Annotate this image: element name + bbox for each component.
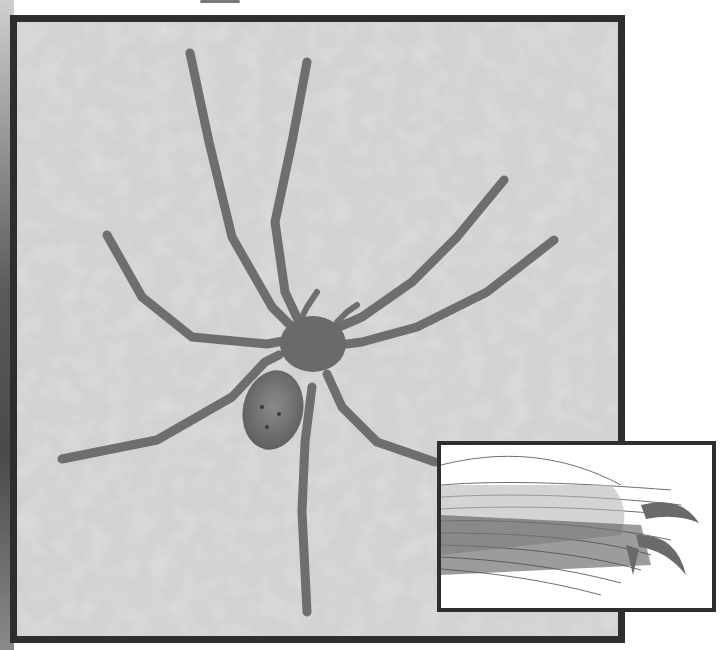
inset-claw-micrograph <box>437 441 716 612</box>
claw-micrograph <box>441 445 712 608</box>
cropped-text-fragment <box>200 0 240 3</box>
